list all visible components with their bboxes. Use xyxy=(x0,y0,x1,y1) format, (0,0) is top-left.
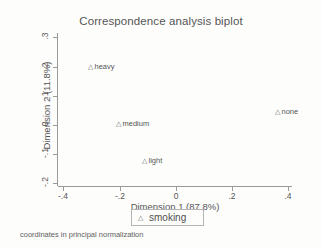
legend[interactable]: △ smoking xyxy=(131,209,204,226)
x-tick-label: .4 xyxy=(273,191,303,201)
footnote: coordinates in principal normalization xyxy=(20,230,143,239)
legend-triangle-marker-icon: △ xyxy=(138,214,143,221)
y-tick-mark xyxy=(53,183,57,184)
data-point-light[interactable]: △ light xyxy=(142,157,162,165)
triangle-marker-icon: △ xyxy=(88,63,93,70)
data-point-none[interactable]: △ none xyxy=(275,108,298,116)
data-point-medium[interactable]: △ medium xyxy=(116,120,149,128)
y-tick-mark xyxy=(53,96,57,97)
legend-label: smoking xyxy=(149,212,186,223)
data-point-label: none xyxy=(282,108,299,116)
correspondence-biplot-figure: Correspondence analysis biplot -.4 -.2 0… xyxy=(0,0,322,249)
y-axis-title: Dimension 2 (11.8%) xyxy=(41,26,52,186)
data-point-heavy[interactable]: △ heavy xyxy=(88,63,115,71)
plot-area xyxy=(58,33,292,186)
y-tick-mark xyxy=(53,67,57,68)
y-tick-mark xyxy=(53,37,57,38)
data-point-label: medium xyxy=(123,120,150,128)
data-point-label: heavy xyxy=(95,63,115,71)
x-axis-line xyxy=(58,186,292,187)
y-tick-mark xyxy=(53,125,57,126)
x-tick-label: 0 xyxy=(161,191,191,201)
y-tick-mark xyxy=(53,154,57,155)
x-tick-label: -.2 xyxy=(105,191,135,201)
triangle-marker-icon: △ xyxy=(275,108,280,115)
x-tick-label: .2 xyxy=(217,191,247,201)
triangle-marker-icon: △ xyxy=(116,120,121,127)
triangle-marker-icon: △ xyxy=(142,157,147,164)
data-point-label: light xyxy=(149,157,163,165)
x-tick-label: -.4 xyxy=(48,191,78,201)
